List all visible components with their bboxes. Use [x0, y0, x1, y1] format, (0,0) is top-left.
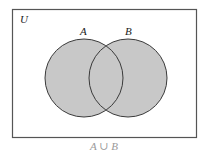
universe-label: U	[20, 13, 29, 25]
union-shading	[45, 39, 167, 117]
set-a-label: A	[79, 25, 87, 37]
venn-diagram: U A B A ∪ B	[0, 0, 209, 155]
set-b-label: B	[125, 25, 132, 37]
diagram-caption: A ∪ B	[89, 140, 118, 152]
